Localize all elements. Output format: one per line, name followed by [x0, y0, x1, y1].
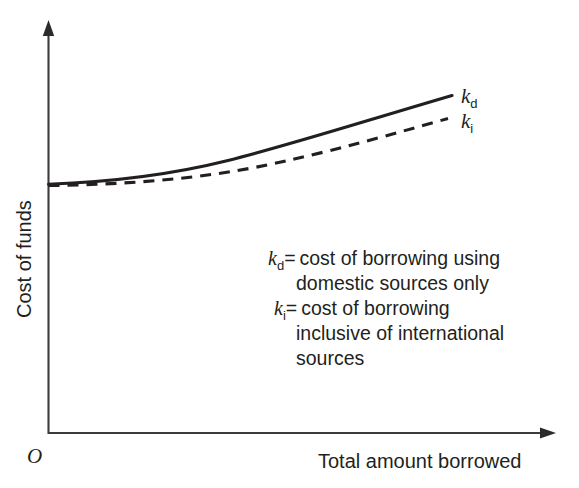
origin-label: O — [27, 444, 42, 468]
note-line-4: sources — [296, 347, 365, 369]
cost-of-funds-chart: kd ki Cost of funds Total amount borrowe… — [0, 0, 579, 488]
series-label-kd-subscript: d — [470, 96, 477, 111]
note-line-0-subscript: d — [277, 258, 284, 273]
note-line-0-equals: = — [284, 247, 295, 269]
note-line-2-equals: = — [286, 297, 297, 319]
note-line-2-text: cost of borrowing — [301, 297, 450, 319]
note-line-3: inclusive of international — [296, 322, 504, 344]
series-label-ki-subscript: i — [470, 121, 473, 136]
note-line-0-text: cost of borrowing using — [300, 247, 501, 269]
x-axis-title: Total amount borrowed — [318, 450, 521, 472]
note-line-1: domestic sources only — [296, 272, 489, 294]
chart-background — [0, 0, 579, 488]
y-axis-title: Cost of funds — [13, 200, 35, 318]
